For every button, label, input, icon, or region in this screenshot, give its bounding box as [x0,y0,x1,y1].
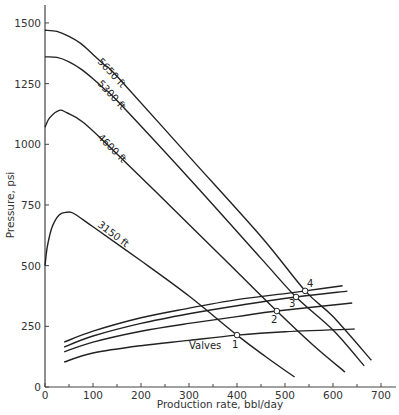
curve-label-4600: 4600 ft [96,132,129,165]
y-tick-label: 1500 [14,17,41,29]
point-label-1: 1 [232,339,238,350]
y-tick-label: 1000 [14,138,41,150]
curve-3150-ft [45,212,295,377]
x-tick-label: 0 [42,389,49,401]
point-label-4: 4 [307,278,313,289]
y-tick-label: 0 [34,381,41,393]
y-tick-label: 1250 [14,78,41,90]
pressure-production-chart: 0100200300400500600700025050075010001250… [0,0,399,415]
y-tick-label: 750 [21,199,41,211]
intersection-point-2 [274,308,280,314]
y-tick-label: 250 [21,320,41,332]
x-axis-title: Production rate, bbl/day [157,398,283,410]
curve-label-3150: 3150 ft [96,219,131,249]
y-tick-label: 500 [21,260,41,272]
curve-5300-ft [45,57,364,366]
point-label-2: 2 [271,314,277,325]
y-axis-title: Pressure, psi [4,172,16,239]
x-tick-label: 100 [83,389,103,401]
point-label-3: 3 [289,298,295,309]
x-tick-label: 700 [371,389,391,401]
curves [45,30,371,377]
valves-label: Valves [189,340,221,351]
x-tick-label: 200 [131,389,151,401]
intersection-point-1 [234,332,240,338]
x-tick-label: 600 [323,389,343,401]
